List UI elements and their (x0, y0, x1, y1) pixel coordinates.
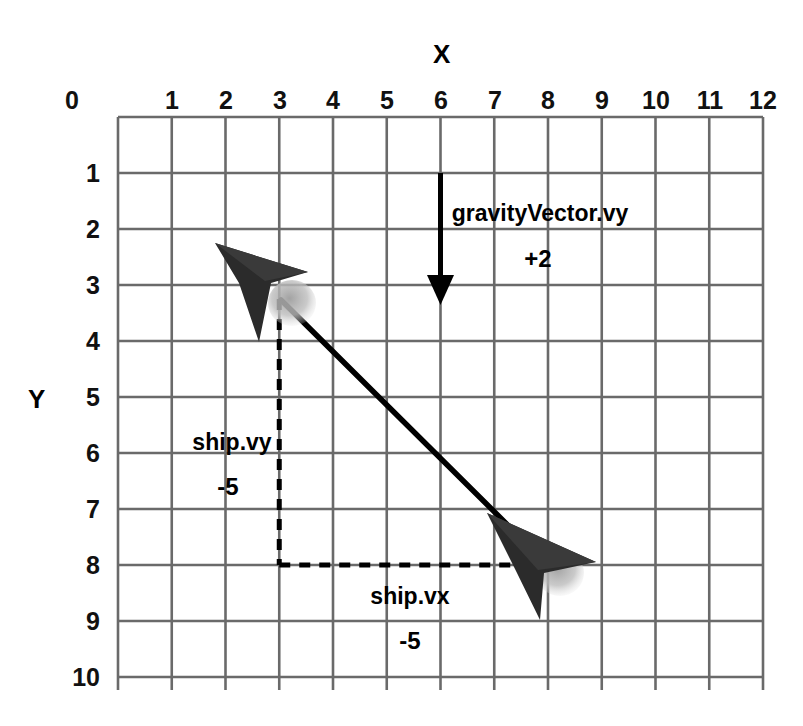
ship-vy-value: -5 (217, 475, 238, 499)
ship-new-position (215, 243, 316, 342)
gravity-vector-label: gravityVector.vy (452, 202, 628, 225)
ship-vy-label: ship.vy (192, 431, 271, 454)
ship-vx-value: -5 (399, 629, 420, 653)
diagram-graphics (0, 0, 803, 726)
vector-diagram-canvas: X Y 0 1 2 3 4 5 6 7 8 9 10 11 12 1 2 3 4… (0, 0, 803, 726)
ship-vx-label: ship.vx (370, 585, 449, 608)
gravity-vector-value: +2 (524, 247, 551, 271)
